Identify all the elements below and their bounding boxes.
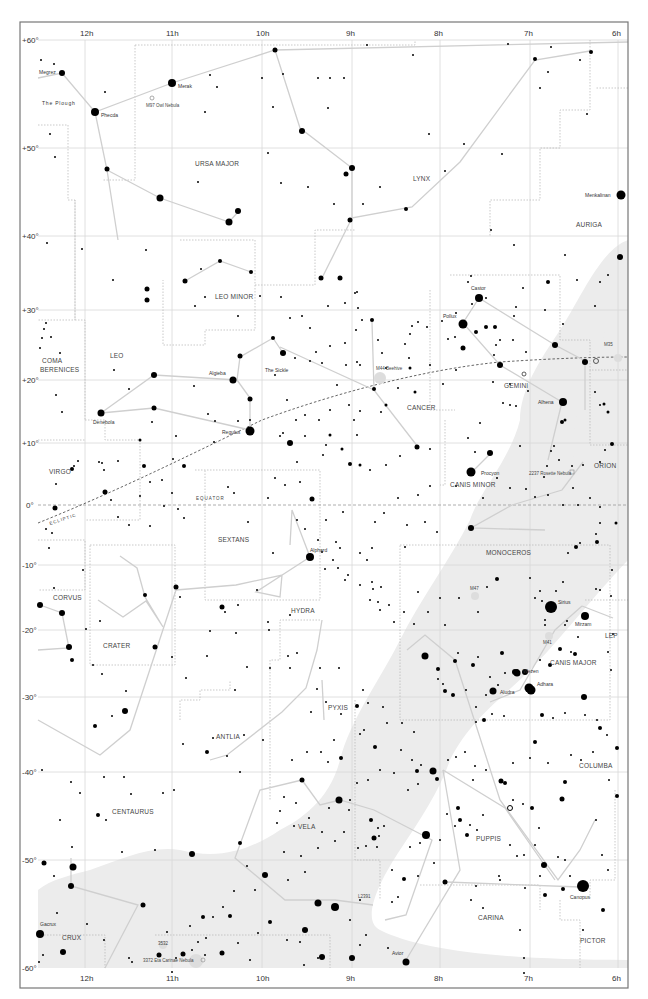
svg-text:10h: 10h [256, 974, 269, 983]
svg-text:-30°: -30° [22, 693, 37, 702]
ra-axis-bottom: 12h 11h 10h 9h 8h 7h 6h [80, 974, 621, 983]
svg-text:11h: 11h [166, 29, 179, 38]
svg-text:L2391: L2391 [358, 894, 371, 899]
svg-text:Pollux: Pollux [443, 313, 457, 319]
svg-text:Alphard: Alphard [310, 547, 327, 553]
svg-text:CRATER: CRATER [103, 642, 131, 649]
svg-text:+60°: +60° [22, 36, 39, 45]
svg-text:12h: 12h [80, 29, 93, 38]
svg-text:PUPPIS: PUPPIS [476, 835, 502, 842]
svg-text:Alhena: Alhena [538, 399, 554, 405]
svg-text:10h: 10h [256, 29, 269, 38]
svg-text:ANTLIA: ANTLIA [216, 733, 240, 740]
svg-text:Wezen: Wezen [523, 668, 539, 674]
svg-text:Gacrux: Gacrux [40, 921, 57, 927]
svg-text:M97 Owl Nebula: M97 Owl Nebula [146, 103, 180, 108]
svg-text:Phecda: Phecda [101, 112, 118, 118]
svg-text:Procyon: Procyon [481, 470, 500, 476]
svg-text:CORVUS: CORVUS [53, 594, 82, 601]
svg-text:8h: 8h [434, 974, 443, 983]
svg-text:-40°: -40° [22, 768, 37, 777]
svg-text:LEO MINOR: LEO MINOR [215, 293, 253, 300]
svg-text:M47: M47 [470, 586, 479, 591]
asterism-the-plough: The Plough [42, 100, 76, 106]
svg-text:7h: 7h [524, 29, 533, 38]
svg-text:-50°: -50° [22, 856, 37, 865]
svg-text:-20°: -20° [22, 626, 37, 635]
svg-text:+10°: +10° [22, 439, 39, 448]
svg-text:CANCER: CANCER [407, 404, 436, 411]
svg-text:+40°: +40° [22, 232, 39, 241]
svg-text:URSA MAJOR: URSA MAJOR [195, 160, 239, 167]
asterism-the-sickle: The Sickle [265, 367, 289, 373]
svg-text:6h: 6h [612, 29, 621, 38]
svg-text:-60°: -60° [22, 964, 37, 973]
svg-text:9h: 9h [346, 974, 355, 983]
svg-text:CANIS MINOR: CANIS MINOR [450, 481, 496, 488]
svg-text:Adhara: Adhara [537, 681, 553, 687]
svg-text:VELA: VELA [298, 823, 316, 830]
svg-text:Canopus: Canopus [570, 894, 591, 900]
svg-text:PICTOR: PICTOR [580, 937, 606, 944]
dec-axis: +60° +50° +40° +30° +20° +10° 0° -10° -2… [22, 36, 39, 973]
svg-text:12h: 12h [80, 974, 93, 983]
svg-text:LYNX: LYNX [413, 175, 431, 182]
star-chart: 12h 11h 10h 9h 8h 7h 6h 12h 11h 10h 9h 8… [0, 0, 648, 999]
svg-text:M44 Beehive: M44 Beehive [376, 366, 403, 371]
svg-text:GEMINI: GEMINI [504, 382, 528, 389]
ra-axis-top: 12h 11h 10h 9h 8h 7h 6h [80, 29, 621, 38]
svg-text:CRUX: CRUX [62, 934, 82, 941]
svg-text:Avior: Avior [392, 950, 404, 956]
equator-label: EQUATOR [196, 496, 225, 501]
svg-text:+30°: +30° [22, 306, 39, 315]
svg-text:ORION: ORION [594, 462, 616, 469]
svg-text:M41: M41 [543, 640, 552, 645]
ecliptic-label: ECLIPTIC [49, 512, 77, 525]
svg-text:CARINA: CARINA [478, 914, 504, 921]
svg-text:Aludra: Aludra [500, 689, 515, 695]
svg-text:MONOCEROS: MONOCEROS [486, 549, 532, 556]
svg-text:CENTAURUS: CENTAURUS [112, 808, 154, 815]
svg-text:6h: 6h [612, 974, 621, 983]
svg-text:CANIS MAJOR: CANIS MAJOR [550, 659, 597, 666]
svg-text:HYDRA: HYDRA [291, 607, 315, 614]
svg-text:-10°: -10° [22, 561, 37, 570]
svg-text:Mirzam: Mirzam [575, 621, 591, 627]
svg-text:COMABERENICES: COMABERENICES [40, 357, 80, 373]
svg-text:LEO: LEO [110, 352, 124, 359]
svg-text:COLUMBA: COLUMBA [579, 762, 613, 769]
svg-text:+20°: +20° [22, 376, 39, 385]
svg-text:2237 Rosette Nebula: 2237 Rosette Nebula [529, 471, 572, 476]
svg-text:11h: 11h [166, 974, 179, 983]
svg-text:LEP: LEP [605, 632, 618, 639]
svg-text:Sirius: Sirius [558, 599, 571, 605]
svg-text:8h: 8h [434, 29, 443, 38]
svg-text:+50°: +50° [22, 144, 39, 153]
svg-text:3372 Eta Carinae Nebula: 3372 Eta Carinae Nebula [143, 958, 194, 963]
svg-text:PYXIS: PYXIS [328, 704, 349, 711]
svg-text:Merak: Merak [178, 83, 192, 89]
svg-text:VIRGO: VIRGO [49, 468, 71, 475]
svg-text:Denebola: Denebola [93, 419, 115, 425]
svg-text:Castor: Castor [471, 285, 486, 291]
svg-text:Megrez: Megrez [39, 69, 56, 75]
svg-text:AURIGA: AURIGA [576, 221, 603, 228]
svg-text:0°: 0° [26, 501, 34, 510]
svg-text:Regulus: Regulus [222, 429, 241, 435]
svg-text:Menkalinan: Menkalinan [585, 192, 611, 198]
svg-text:3532: 3532 [158, 941, 169, 946]
svg-text:7h: 7h [524, 974, 533, 983]
svg-text:SEXTANS: SEXTANS [218, 536, 250, 543]
svg-text:M35: M35 [604, 342, 613, 347]
svg-text:Algieba: Algieba [209, 370, 226, 376]
svg-text:9h: 9h [346, 29, 355, 38]
